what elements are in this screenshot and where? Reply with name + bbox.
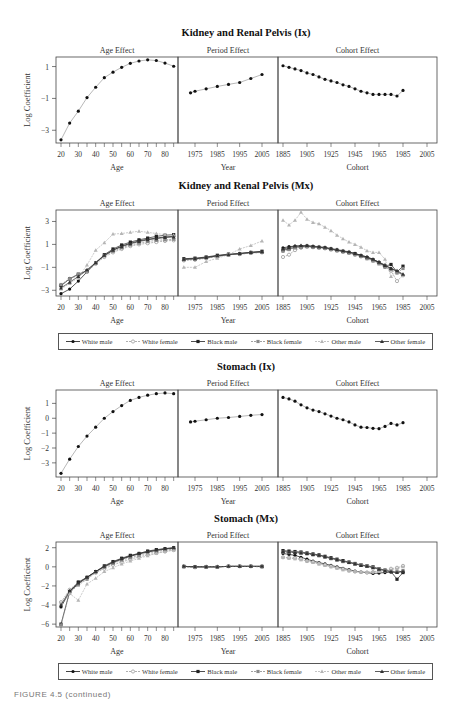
legend-swatch-icon	[251, 338, 265, 345]
y-tick-label: 0	[45, 414, 49, 423]
panel-period-effect: Period Effect1975198519952005Year	[178, 379, 278, 506]
chart-row-3: Stomach (Mx)Log Coefficient20−2−4−6Age E…	[22, 513, 437, 656]
x-tick-label: 40	[92, 150, 100, 159]
x-tick-label: 1925	[324, 150, 339, 159]
panel-age-effect: Age Effect20304050607080Age	[56, 531, 178, 656]
x-tick-label: 1975	[188, 484, 203, 493]
y-tick-label: −1	[41, 429, 49, 438]
y-tick-label: −3	[41, 286, 49, 295]
x-tick-label: 80	[161, 634, 169, 643]
series-markers	[59, 549, 175, 604]
legend-item: Black male	[191, 668, 237, 675]
x-axis-label: Year	[221, 163, 236, 172]
legend-kidney: White maleWhite femaleBlack maleBlack fe…	[58, 333, 433, 350]
panel-subtitle: Cohort Effect	[336, 531, 380, 540]
panel-subtitle: Period Effect	[207, 46, 250, 55]
legend-label: Black female	[267, 668, 302, 675]
x-tick-label: 30	[75, 484, 83, 493]
series-line	[61, 550, 174, 603]
x-tick-label: 1975	[188, 150, 203, 159]
x-tick-label: 40	[92, 303, 100, 312]
x-tick-label: 2005	[255, 484, 270, 493]
y-tick-label: 1	[45, 240, 49, 249]
y-tick-label: −2	[41, 444, 49, 453]
legend-label: Other female	[391, 338, 426, 345]
x-tick-label: 1965	[372, 303, 387, 312]
x-tick-label: 1985	[396, 150, 411, 159]
series-markers	[281, 396, 404, 430]
x-tick-label: 2005	[255, 303, 270, 312]
panel-subtitle: Age Effect	[100, 531, 136, 540]
x-tick-label: 1945	[348, 484, 363, 493]
y-tick-label: 1	[45, 63, 49, 72]
series-markers	[281, 64, 404, 97]
x-tick-label: 2005	[420, 150, 435, 159]
series-markers	[59, 235, 176, 290]
x-tick-label: 20	[57, 303, 65, 312]
x-tick-label: 1925	[324, 484, 339, 493]
legend-label: White female	[142, 338, 178, 345]
series-line	[61, 236, 174, 293]
series-line	[61, 550, 174, 602]
x-axis-label: Year	[221, 316, 236, 325]
x-tick-label: 1975	[188, 634, 203, 643]
x-tick-label: 1985	[396, 303, 411, 312]
legend-label: White female	[142, 668, 178, 675]
chart-row-1: Kidney and Renal Pelvis (Mx)Log Coeffici…	[22, 180, 437, 325]
x-tick-label: 50	[109, 634, 117, 643]
chart-title: Stomach (Mx)	[214, 513, 278, 525]
y-tick-label: −6	[41, 620, 49, 629]
x-tick-label: 20	[57, 634, 65, 643]
panel-subtitle: Age Effect	[100, 199, 136, 208]
x-tick-label: 60	[127, 484, 135, 493]
x-tick-label: 1945	[348, 634, 363, 643]
legend-item: Black female	[251, 338, 302, 345]
legend-label: Black male	[207, 338, 237, 345]
x-tick-label: 1885	[276, 303, 291, 312]
x-tick-label: 2005	[255, 634, 270, 643]
x-tick-label: 1985	[210, 303, 225, 312]
chart-row-2: Stomach (Ix)Log Coefficient10−1−2−3Age E…	[22, 361, 437, 506]
x-tick-label: 1905	[300, 150, 315, 159]
figure-caption: FIGURE 4.5 (continued)	[14, 690, 111, 699]
series-line	[283, 397, 403, 428]
series-line	[61, 548, 174, 605]
panel-subtitle: Age Effect	[100, 46, 136, 55]
legend-swatch-icon	[375, 338, 389, 345]
x-tick-label: 1975	[188, 303, 203, 312]
legend-item: White male	[66, 338, 113, 345]
legend-item: White female	[126, 338, 178, 345]
x-tick-label: 50	[109, 484, 117, 493]
x-axis-label: Age	[110, 497, 124, 506]
y-tick-label: 0	[45, 563, 49, 572]
x-tick-label: 60	[127, 303, 135, 312]
x-tick-label: 50	[109, 303, 117, 312]
series-line	[283, 551, 403, 580]
legend-label: Black male	[207, 668, 237, 675]
panel-subtitle: Cohort Effect	[336, 379, 380, 388]
x-tick-label: 2005	[255, 150, 270, 159]
x-tick-label: 1905	[300, 484, 315, 493]
series-markers	[59, 391, 175, 475]
legend-label: Black female	[267, 338, 302, 345]
x-tick-label: 1985	[210, 150, 225, 159]
y-axis-label: Log Coefficient	[22, 72, 32, 127]
panel-subtitle: Period Effect	[207, 199, 250, 208]
panel-age-effect: Age Effect20304050607080Age	[56, 379, 178, 506]
series-line	[61, 60, 174, 140]
x-tick-label: 1885	[276, 150, 291, 159]
x-tick-label: 70	[144, 634, 152, 643]
legend-item: Other female	[375, 668, 426, 675]
x-tick-label: 1995	[232, 634, 247, 643]
legend-label: Other female	[391, 668, 426, 675]
series-markers	[59, 548, 176, 605]
legend-item: Black female	[251, 668, 302, 675]
x-tick-label: 1965	[372, 484, 387, 493]
x-tick-label: 20	[57, 150, 65, 159]
y-tick-label: −3	[41, 459, 49, 468]
panel-subtitle: Cohort Effect	[336, 199, 380, 208]
legend-swatch-icon	[315, 338, 329, 345]
x-tick-label: 80	[161, 303, 169, 312]
x-tick-label: 80	[161, 484, 169, 493]
x-tick-label: 70	[144, 303, 152, 312]
